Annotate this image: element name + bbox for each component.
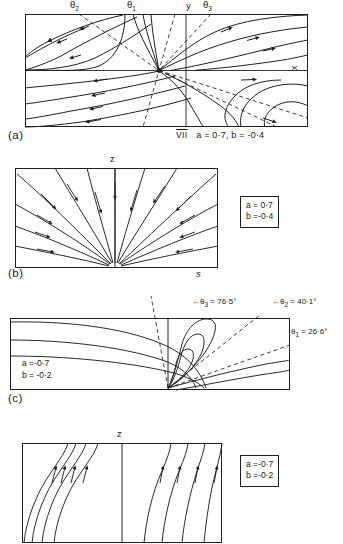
panel-c-theta3-annotation: ←θ3 = 76·5° bbox=[192, 298, 236, 308]
panel-a-caption: VII a = 0·7, b = -0·4 bbox=[176, 131, 264, 140]
panel-c-parameters: a =-0·7 b = -0·2 bbox=[22, 358, 52, 382]
panel-d-parameter-box: a =-0·7 b =-0·2 bbox=[240, 455, 279, 487]
panel-d-param-a: a =-0·7 bbox=[246, 459, 273, 470]
theta3-arrow-icon: ← bbox=[192, 297, 200, 306]
panel-a-theta3-label: θ3 bbox=[203, 0, 212, 12]
panel-b-param-a: a = 0·7 bbox=[246, 200, 273, 211]
theta2-value: = 40·1° bbox=[290, 297, 316, 306]
theta1-subscript: 1 bbox=[132, 5, 136, 12]
panel-c-theta1-annotation: θ1 = 26·6° bbox=[291, 328, 327, 338]
panel-a-theta1-label: θ1 bbox=[127, 0, 136, 12]
panel-c-param-a: a =-0·7 bbox=[22, 358, 52, 370]
panel-a-theta2-label: θ2 bbox=[70, 0, 79, 12]
panel-b-s-axis-label: s bbox=[196, 269, 201, 279]
theta3-subscript: 3 bbox=[208, 5, 212, 12]
panel-a-streamlines bbox=[25, 14, 308, 127]
panel-a-y-axis-label: y bbox=[186, 1, 191, 11]
theta1-value: = 26·6° bbox=[301, 327, 327, 336]
panel-c-streamlines bbox=[10, 318, 290, 390]
panel-c: ←θ3 = 76·5° ←θ2 = 40·1° θ1 = 26·6° bbox=[0, 290, 343, 412]
panel-d: z bbox=[0, 412, 343, 544]
panel-b-id: (b) bbox=[8, 268, 24, 280]
panel-b-streamlines bbox=[15, 168, 218, 268]
panel-a-case-number: VII bbox=[176, 130, 188, 140]
panel-b: z bbox=[0, 150, 343, 290]
panel-a-id: (a) bbox=[8, 130, 24, 142]
panel-d-param-b: b =-0·2 bbox=[246, 470, 273, 481]
panel-c-theta2-annotation: ←θ2 = 40·1° bbox=[272, 298, 316, 308]
theta2-subscript: 2 bbox=[75, 5, 79, 12]
theta2-arrow-icon: ← bbox=[272, 297, 280, 306]
panel-a-x-axis-label: x bbox=[289, 65, 299, 70]
panel-c-id: (c) bbox=[8, 393, 23, 405]
panel-b-z-axis-label: z bbox=[110, 154, 115, 164]
panel-d-z-axis-label: z bbox=[117, 429, 122, 439]
theta3-value: = 76·5° bbox=[210, 297, 236, 306]
panel-a-caption-params: a = 0·7, b = -0·4 bbox=[196, 130, 264, 140]
panel-d-streamlines bbox=[22, 443, 222, 543]
theta1-subscript: 1 bbox=[295, 331, 299, 338]
panel-b-parameter-box: a = 0·7 b =-0·4 bbox=[240, 196, 279, 228]
panel-c-param-b: b = -0·2 bbox=[22, 370, 52, 382]
theta3-subscript: 3 bbox=[204, 301, 208, 308]
panel-a: θ2 θ1 y θ3 bbox=[0, 0, 343, 150]
panel-b-param-b: b =-0·4 bbox=[246, 211, 273, 222]
theta2-subscript: 2 bbox=[284, 301, 288, 308]
